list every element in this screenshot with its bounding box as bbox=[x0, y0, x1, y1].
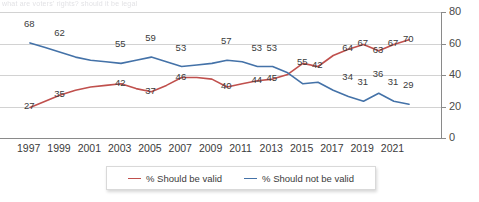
data-label: 57 bbox=[221, 36, 232, 46]
x-label-2017: 2017 bbox=[320, 142, 343, 154]
data-label: 36 bbox=[373, 69, 384, 79]
x-label-2013: 2013 bbox=[260, 142, 283, 154]
chart-container: what are voters' rights? should it be le… bbox=[0, 0, 479, 202]
y-tick-20 bbox=[441, 107, 446, 108]
data-label: 53 bbox=[267, 43, 278, 53]
data-label: 55 bbox=[115, 39, 126, 49]
data-label: 42 bbox=[312, 60, 323, 70]
legend-item-should-not-be-valid[interactable]: % Should not be valid bbox=[244, 173, 354, 184]
x-label-2015: 2015 bbox=[290, 142, 313, 154]
data-label: 35 bbox=[54, 89, 65, 99]
legend-swatch-red bbox=[128, 178, 141, 179]
legend-label: % Should not be valid bbox=[262, 173, 354, 184]
data-label: 55 bbox=[297, 57, 308, 67]
chart-legend: % Should be valid % Should not be valid bbox=[106, 166, 376, 190]
data-label: 67 bbox=[358, 38, 369, 48]
data-label: 45 bbox=[267, 73, 278, 83]
data-label: 40 bbox=[221, 81, 232, 91]
x-label-2007: 2007 bbox=[169, 142, 192, 154]
y-label-40: 40 bbox=[449, 69, 461, 80]
x-label-2019: 2019 bbox=[351, 142, 374, 154]
y-tick-0 bbox=[441, 138, 446, 139]
x-label-2011: 2011 bbox=[229, 142, 252, 154]
legend-item-should-be-valid[interactable]: % Should be valid bbox=[128, 173, 222, 184]
x-label-2021: 2021 bbox=[381, 142, 404, 154]
data-label: 46 bbox=[176, 72, 187, 82]
data-label: 64 bbox=[342, 43, 353, 53]
data-label: 29 bbox=[403, 80, 414, 90]
x-label-2009: 2009 bbox=[199, 142, 222, 154]
x-label-1999: 1999 bbox=[47, 142, 70, 154]
data-label: 31 bbox=[388, 77, 399, 87]
data-label: 59 bbox=[145, 33, 156, 43]
data-label: 67 bbox=[388, 38, 399, 48]
data-label: 70 bbox=[403, 34, 414, 44]
y-tick-40 bbox=[441, 75, 446, 76]
x-label-2003: 2003 bbox=[108, 142, 131, 154]
legend-label: % Should be valid bbox=[146, 173, 222, 184]
x-label-2005: 2005 bbox=[138, 142, 161, 154]
data-label: 37 bbox=[145, 86, 156, 96]
gridline-80 bbox=[0, 12, 441, 13]
x-label-1997: 1997 bbox=[17, 142, 40, 154]
y-tick-80 bbox=[441, 12, 446, 13]
data-label: 53 bbox=[176, 43, 187, 53]
x-label-2001: 2001 bbox=[78, 142, 101, 154]
data-label: 34 bbox=[342, 72, 353, 82]
data-label: 44 bbox=[251, 75, 262, 85]
data-label: 63 bbox=[373, 45, 384, 55]
y-label-80: 80 bbox=[449, 6, 461, 17]
y-label-0: 0 bbox=[449, 132, 455, 143]
data-label: 68 bbox=[24, 19, 35, 29]
y-label-20: 20 bbox=[449, 101, 461, 112]
y-label-60: 60 bbox=[449, 38, 461, 49]
data-label: 42 bbox=[115, 78, 126, 88]
data-label: 27 bbox=[24, 101, 35, 111]
clipped-headline: what are voters' rights? should it be le… bbox=[2, 0, 302, 8]
data-label: 62 bbox=[54, 28, 65, 38]
data-label: 31 bbox=[358, 77, 369, 87]
data-label: 53 bbox=[251, 43, 262, 53]
legend-swatch-blue bbox=[244, 178, 257, 179]
y-tick-60 bbox=[441, 44, 446, 45]
